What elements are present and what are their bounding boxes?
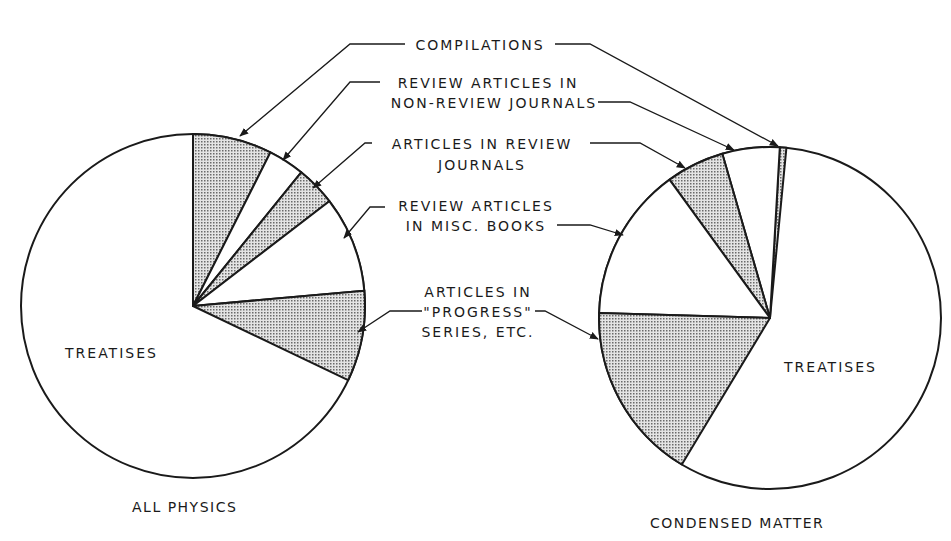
callout-review-journals-line2: JOURNALS [437,157,526,173]
arrow-review-journals-left [313,143,372,188]
callout-compilations: COMPILATIONS [415,37,544,53]
arrow-non-review-left [283,82,380,160]
arrow-misc-books-left [344,207,385,238]
callout-review-journals-line1: ARTICLES IN REVIEW [392,136,573,152]
callout-progress-line2: "PROGRESS" [423,304,532,320]
arrow-progress-right [535,311,598,339]
pie-chart-figure: TREATISES ALL PHYSICS TREATISES CONDENSE… [0,0,951,541]
arrow-review-journals-right [590,143,685,168]
arrow-misc-books-right [557,225,623,235]
right-treatises-label: TREATISES [783,359,877,375]
callout-non-review-line1: REVIEW ARTICLES IN [398,75,579,91]
callout-misc-books-line2: IN MISC. BOOKS [406,218,546,234]
left-pie-all-physics [21,134,365,478]
callout-non-review-line2: NON-REVIEW JOURNALS [391,95,597,111]
right-pie-title: CONDENSED MATTER [650,515,824,531]
left-pie-title: ALL PHYSICS [132,499,237,515]
callout-progress-line1: ARTICLES IN [424,284,531,300]
callout-misc-books-line1: REVIEW ARTICLES [398,198,554,214]
arrow-progress-left [358,311,422,332]
arrow-compilations-left [240,44,405,136]
callout-progress-line3: SERIES, ETC. [421,324,534,340]
callout-labels: COMPILATIONS REVIEW ARTICLES IN NON-REVI… [391,37,597,340]
right-pie-condensed-matter [599,147,941,489]
left-treatises-label: TREATISES [64,345,158,361]
